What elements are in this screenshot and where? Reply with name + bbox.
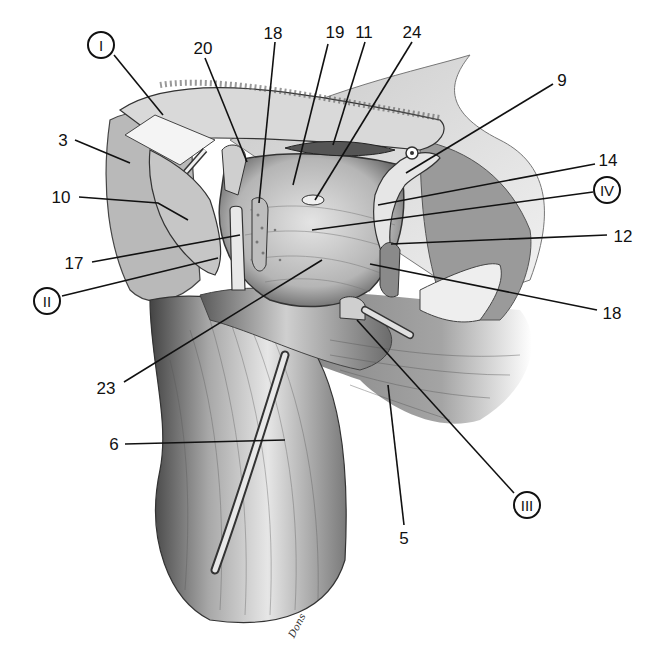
anatomy-illustration [0,0,653,659]
label-11: 11 [355,24,373,41]
label-IV: IV [593,176,621,204]
label-5: 5 [399,530,408,547]
label-10: 10 [52,189,71,206]
label-II: II [33,287,61,315]
label-I: I [87,31,115,59]
label-14: 14 [599,152,618,169]
label-19: 19 [326,24,345,41]
label-18-top: 18 [264,25,283,42]
label-20: 20 [194,40,213,57]
label-6: 6 [109,436,118,453]
label-9: 9 [557,72,566,89]
label-3: 3 [58,132,67,149]
label-III: III [513,491,541,519]
label-18-right: 18 [603,305,622,322]
anatomical-figure: I 20 18 19 11 24 9 14 IV 12 18 3 10 17 I… [0,0,653,659]
label-12: 12 [614,228,633,245]
label-23: 23 [97,380,116,397]
label-17: 17 [65,255,84,272]
label-24: 24 [403,24,422,41]
